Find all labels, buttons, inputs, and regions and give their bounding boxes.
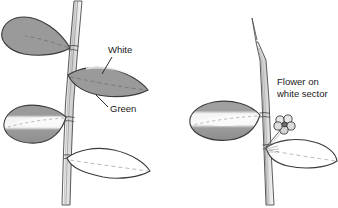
label-flower-line-1: Flower on <box>277 76 319 87</box>
flower-petal-left <box>274 122 282 130</box>
figure-canvas: White Green <box>0 0 338 208</box>
plant-variegation-illustration: White Green <box>0 0 338 208</box>
label-flower-line-2: white sector <box>276 88 328 99</box>
label-green: Green <box>110 103 136 114</box>
flower-center <box>282 122 287 127</box>
label-white: White <box>108 44 132 55</box>
